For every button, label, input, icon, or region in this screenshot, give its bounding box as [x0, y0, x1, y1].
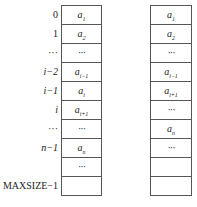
index-label: ··· — [0, 43, 58, 62]
index-label: ··· — [0, 119, 58, 138]
array-cell: a1 — [151, 6, 191, 24]
array-cell: ai−1 — [62, 62, 101, 81]
index-labels: 0 1 ··· i−2 i−1 i ··· n−1 MAXSIZE−1 — [0, 5, 58, 195]
array-cell: ··· — [151, 100, 191, 119]
index-label: 1 — [0, 24, 58, 43]
index-label: MAXSIZE−1 — [0, 176, 58, 195]
array-after-delete: a1 a2 ··· ai−1 ai+1 ··· an ··· — [150, 5, 192, 196]
array-cell — [151, 157, 191, 176]
array-cell: ··· — [62, 157, 101, 176]
array-cell: ··· — [62, 119, 101, 138]
index-label: i — [0, 100, 58, 119]
index-label: 0 — [0, 5, 58, 24]
array-cell: ··· — [62, 43, 101, 62]
index-label — [0, 157, 58, 176]
array-cell: a1 — [62, 6, 101, 24]
array-cell: ai+1 — [151, 81, 191, 100]
array-cell: a2 — [62, 24, 101, 43]
index-label: i−2 — [0, 62, 58, 81]
index-label: i−1 — [0, 81, 58, 100]
array-cell — [151, 176, 191, 195]
array-cell: ai — [62, 81, 101, 100]
array-cell: a2 — [151, 24, 191, 43]
index-label: n−1 — [0, 138, 58, 157]
array-cell: an — [62, 138, 101, 157]
array-cell: ··· — [151, 138, 191, 157]
array-before-delete: a1 a2 ··· ai−1 ai ai+1 ··· an ··· — [61, 5, 102, 196]
array-cell: ai−1 — [151, 62, 191, 81]
array-cell: ··· — [151, 43, 191, 62]
array-cell: ai+1 — [62, 100, 101, 119]
array-cell: an — [151, 119, 191, 138]
array-cell — [62, 176, 101, 195]
